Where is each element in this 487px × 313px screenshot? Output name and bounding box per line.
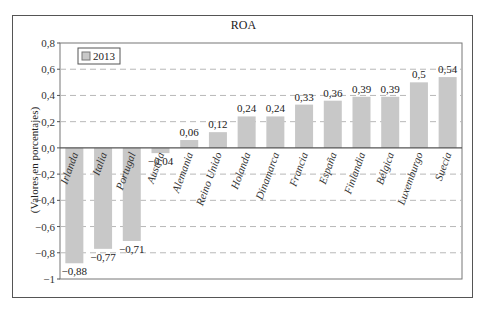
category-label: Bélgica [373,150,396,186]
category-label: Luxemburgo [394,150,425,207]
bar-value-label: 0,36 [323,87,343,99]
bar [238,116,256,147]
bar-value-label: 0,24 [266,102,286,114]
bar [439,77,457,148]
y-tick-label: 0,4 [41,89,55,101]
bar [180,140,198,148]
bar [381,97,399,148]
bar [353,97,371,148]
category-label: Holanda [228,150,253,192]
y-tick-label: 0,2 [41,116,55,128]
category-label: Reino Unido [193,150,224,208]
y-tick-label: −0,4 [35,194,55,206]
bar-value-label: 0,24 [237,102,257,114]
category-label: España [316,150,339,187]
category-label: Finlandia [341,150,368,196]
bar-value-label: 0,54 [438,63,458,75]
category-label: Dinamarca [253,150,282,202]
y-tick-label: −1 [43,273,55,285]
bar-value-label: −0,77 [90,251,116,263]
legend-label: 2013 [93,50,116,62]
bar [209,132,227,148]
bar-value-label: −0,71 [119,243,144,255]
legend-swatch [82,52,90,60]
y-tick-label: −0,6 [35,221,55,233]
bar [295,105,313,148]
bar [410,82,428,148]
y-tick-label: 0,0 [41,142,55,154]
bar-value-label: 0,06 [180,126,200,138]
bar-value-label: 0,39 [352,83,372,95]
bar-value-label: 0,12 [208,118,227,130]
bar-value-label: 0,5 [412,68,426,80]
bar-value-label: −0,88 [62,265,88,277]
y-tick-label: −0,8 [35,247,55,259]
category-label: Suecia [432,150,453,182]
bar [324,101,342,148]
bar-value-label: 0,39 [381,83,401,95]
y-tick-label: 0,8 [41,37,55,49]
bar-value-label: 0,33 [294,91,314,103]
category-label: Francia [286,150,310,189]
bar [266,116,284,147]
bar-chart: 0,80,60,40,20,0−0,2−0,4−0,6−0,8−1−0,88Ir… [0,0,487,313]
y-tick-label: −0,2 [35,168,55,180]
y-tick-label: 0,6 [41,63,55,75]
